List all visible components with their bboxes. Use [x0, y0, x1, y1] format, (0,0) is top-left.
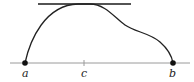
point-a	[22, 60, 28, 66]
label-b: b	[169, 67, 176, 80]
function-diagram: a c b	[0, 0, 194, 82]
label-c: c	[81, 67, 87, 80]
label-a: a	[22, 67, 29, 80]
function-curve	[25, 4, 173, 63]
point-b	[170, 60, 176, 66]
